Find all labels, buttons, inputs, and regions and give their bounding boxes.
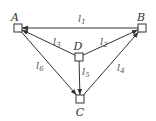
node-label-B: B — [136, 11, 145, 24]
edge-label-l1: l1 — [78, 13, 86, 26]
edge-l5 — [79, 61, 80, 95]
node-label-C: C — [76, 106, 85, 119]
node-label-D: D — [73, 40, 83, 53]
node-label-A: A — [10, 11, 19, 24]
edge-l6 — [21, 32, 76, 95]
edge-label-l5: l5 — [82, 66, 90, 79]
edge-label-l4: l4 — [117, 62, 125, 75]
edge-label-l3: l3 — [53, 36, 61, 49]
node-C — [76, 95, 84, 103]
network-diagram: l1l2l3l4l5l6ABDC — [0, 0, 156, 121]
node-A — [14, 24, 22, 32]
edge-l3 — [22, 30, 75, 55]
edge-l4 — [83, 32, 138, 95]
node-B — [138, 24, 146, 32]
node-D — [75, 53, 83, 61]
edge-label-l6: l6 — [36, 60, 44, 73]
